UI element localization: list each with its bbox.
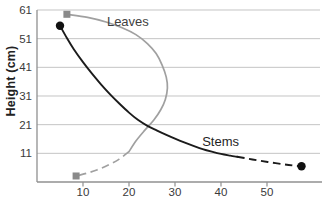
leaves-start-marker: [63, 11, 70, 18]
series-label-stems: Stems: [202, 134, 239, 149]
line-chart: 1020304050112131415161 Height (cm) Leave…: [0, 0, 328, 202]
x-tick-label: 20: [123, 186, 136, 198]
series-label-leaves: Leaves: [107, 14, 149, 29]
y-tick-label: 41: [19, 61, 32, 73]
leaves-end-marker: [73, 172, 80, 179]
y-tick-label: 11: [20, 147, 32, 159]
y-tick-label: 51: [19, 33, 32, 45]
x-tick-label: 10: [77, 186, 90, 198]
x-tick-label: 50: [261, 186, 274, 198]
stems-start-marker: [56, 22, 64, 30]
leaves-curve: [67, 14, 168, 151]
y-tick-label: 21: [19, 119, 32, 131]
y-axis-title: Height (cm): [4, 46, 18, 117]
stems-end-marker: [297, 162, 305, 170]
plot-svg: 1020304050112131415161: [0, 0, 328, 202]
x-tick-label: 40: [215, 186, 228, 198]
x-tick-label: 30: [169, 186, 182, 198]
y-tick-label: 31: [19, 90, 32, 102]
leaves-curve-dashed: [76, 152, 129, 176]
stems-curve-dashed: [237, 157, 301, 166]
y-tick-label: 61: [19, 4, 32, 16]
